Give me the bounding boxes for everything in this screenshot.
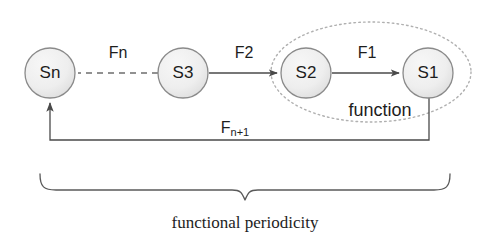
edge-label-f1: F1 bbox=[358, 44, 377, 61]
node-sn[interactable]: Sn bbox=[25, 48, 75, 98]
node-sn-label: Sn bbox=[40, 63, 61, 82]
node-s3[interactable]: S3 bbox=[158, 48, 208, 98]
edge-label-f2: F2 bbox=[235, 44, 254, 61]
edge-label-fn-plus-1-sub: n+1 bbox=[231, 126, 250, 138]
node-s1[interactable]: S1 bbox=[403, 48, 453, 98]
diagram-caption: functional periodicity bbox=[172, 213, 319, 232]
node-s2-label: S2 bbox=[296, 63, 317, 82]
node-s2[interactable]: S2 bbox=[281, 48, 331, 98]
function-group-label: function bbox=[348, 100, 411, 120]
edge-label-fn-plus-1-main: F bbox=[221, 119, 231, 136]
edge-label-fn-plus-1: Fn+1 bbox=[221, 119, 249, 138]
node-s3-label: S3 bbox=[173, 63, 194, 82]
node-s1-label: S1 bbox=[418, 63, 439, 82]
periodicity-brace bbox=[40, 174, 450, 200]
diagram-canvas: Sn S3 S2 S1 Fn F2 F1 Fn+1 function funct… bbox=[0, 0, 485, 252]
edge-label-fn: Fn bbox=[109, 44, 128, 61]
